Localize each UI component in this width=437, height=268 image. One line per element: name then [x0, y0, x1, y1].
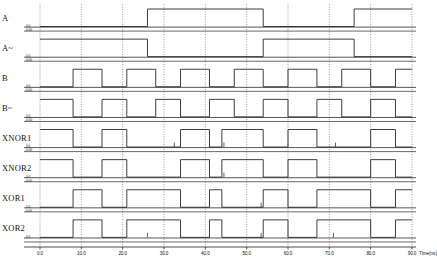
voltage-low-label-xor1: -0.00: [25, 209, 32, 213]
voltage-low-label-b: -0.00: [25, 88, 32, 92]
x-tick-label-60-0: 60.0: [284, 251, 293, 256]
voltage-low-label-a: -0.00: [25, 28, 32, 32]
signal-label-a-bar: A~: [2, 43, 13, 53]
signal-label-xor2: XOR2: [2, 223, 25, 233]
signal-label-xnor1: XNOR1: [2, 133, 31, 143]
x-tick-label-40-0: 40.0: [201, 251, 210, 256]
x-tick-label-30-0: 30.0: [160, 251, 169, 256]
voltage-low-label-xnor2: -0.00: [25, 179, 32, 183]
x-tick-label-50-0: 50.0: [242, 251, 251, 256]
signal-label-b: B: [2, 73, 8, 83]
waveform-trace-xor1: [40, 190, 412, 208]
x-tick-label-70-0: 70.0: [325, 251, 334, 256]
waveform-trace-b-bar: [40, 99, 412, 117]
signal-label-xor1: XOR1: [2, 193, 25, 203]
waveform-trace-a-bar: [40, 39, 412, 57]
signal-label-xnor2: XNOR2: [2, 163, 31, 173]
voltage-low-label-a-bar: -0.00: [25, 58, 32, 62]
waveform-trace-xor2: [40, 220, 412, 238]
waveform-trace-xnor2: [40, 160, 412, 178]
voltage-high-label-xor2: 0.0: [26, 235, 30, 239]
waveform-trace-b: [40, 69, 412, 87]
signal-label-a: A: [2, 13, 8, 23]
x-tick-label-10-0: 10.0: [77, 251, 86, 256]
x-axis-unit-label: Time(ns): [419, 251, 437, 256]
voltage-high-label-xor1: 0.0: [26, 205, 30, 209]
x-tick-label-80-0: 80.0: [366, 251, 375, 256]
voltage-low-label-xnor1: -0.00: [25, 149, 32, 153]
x-tick-label-0-0: 0.0: [37, 251, 43, 256]
voltage-low-label-b-bar: -0.00: [25, 118, 32, 122]
voltage-high-label-xnor2: 0.0: [26, 175, 30, 179]
x-tick-label-90-0: 90.0: [408, 251, 417, 256]
waveform-trace-a: [40, 9, 412, 27]
x-tick-label-20-0: 20.0: [118, 251, 127, 256]
signal-label-b-bar: B~: [2, 103, 13, 113]
waveform-trace-xnor1: [40, 130, 412, 148]
